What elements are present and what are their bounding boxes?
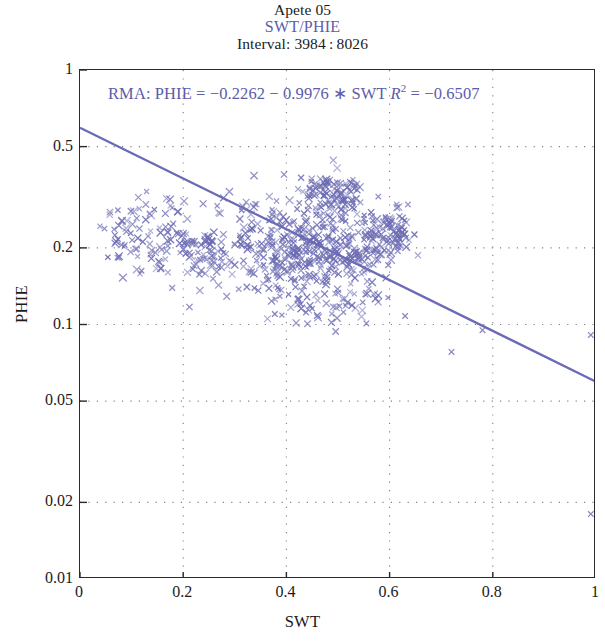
scatter-point — [362, 227, 368, 233]
scatter-point — [364, 278, 371, 285]
chart-subtitle: SWT/PHIE — [0, 19, 605, 36]
scatter-point — [210, 276, 215, 281]
scatter-point — [402, 243, 410, 251]
scatter-point — [329, 311, 334, 316]
scatter-point — [295, 186, 301, 192]
scatter-point — [315, 297, 321, 303]
scatter-point — [375, 299, 382, 306]
scatter-point — [196, 287, 203, 294]
scatter-point — [135, 254, 140, 259]
scatter-point — [118, 217, 126, 225]
scatter-point — [184, 269, 191, 276]
scatter-point — [277, 210, 282, 215]
scatter-point — [168, 203, 174, 209]
x-tick-label: 1 — [591, 583, 599, 601]
page-title: Apete 05 — [0, 2, 605, 18]
gridlines — [80, 70, 595, 578]
scatter-point — [354, 220, 360, 226]
scatter-points-layer — [97, 157, 593, 517]
scatter-point — [326, 213, 333, 220]
scatter-point — [215, 282, 222, 289]
scatter-point — [272, 311, 278, 317]
scatter-point — [178, 250, 183, 255]
scatter-point — [402, 219, 409, 226]
scatter-point — [165, 243, 170, 248]
y-tick-label: 0.01 — [9, 569, 79, 587]
scatter-point — [282, 216, 289, 223]
x-tick-label: 0.2 — [172, 583, 192, 601]
scatter-point — [588, 511, 594, 517]
scatter-point — [169, 285, 175, 291]
y-tick-label: 0.05 — [9, 391, 79, 409]
scatter-point — [309, 306, 314, 311]
scatter-point — [347, 224, 353, 230]
x-axis-label: SWT — [0, 612, 605, 632]
scatter-point — [163, 248, 170, 255]
scatter-point — [215, 203, 220, 208]
regression-equation-annotation: RMA: PHIE = −0.2262 − 0.9976 ∗ SWT R2 = … — [108, 82, 596, 104]
scatter-point — [240, 263, 246, 269]
x-tick-label: 0.8 — [482, 583, 502, 601]
scatter-point — [348, 281, 353, 286]
scatter-point — [277, 294, 282, 299]
scatter-point — [148, 229, 153, 234]
scatter-point — [147, 241, 153, 247]
scatter-point — [180, 197, 188, 205]
scatter-point — [115, 207, 120, 212]
scatter-point — [303, 309, 309, 315]
scatter-point — [349, 204, 355, 210]
scatter-point — [218, 238, 225, 245]
scatter-point — [402, 313, 408, 319]
scatter-point — [136, 226, 142, 232]
r-squared-value: = −0.6507 — [411, 84, 480, 103]
scatter-point — [341, 310, 346, 315]
scatter-point — [333, 314, 340, 321]
scatter-point — [297, 305, 304, 312]
scatter-point — [364, 321, 370, 327]
scatter-point — [236, 286, 241, 291]
scatter-point — [240, 258, 246, 264]
scatter-point — [376, 194, 381, 199]
scatter-point — [297, 200, 302, 205]
y-tick-label: 0.2 — [9, 238, 79, 256]
scatter-point — [281, 266, 288, 273]
scatter-point — [287, 304, 294, 311]
scatter-point — [266, 285, 273, 292]
scatter-point — [258, 228, 264, 234]
y-tick-label: 0.5 — [9, 137, 79, 155]
scatter-point — [293, 319, 300, 326]
y-axis-label: PHIE — [12, 264, 32, 344]
scatter-point — [286, 292, 291, 297]
scatter-point — [240, 224, 248, 232]
scatter-point — [328, 319, 335, 326]
scatter-point — [288, 261, 294, 267]
scatter-point — [274, 198, 279, 203]
scatter-point — [351, 274, 358, 281]
scatter-plot-figure: Apete 05 SWT/PHIE Interval: 3984 : 8026 … — [0, 0, 605, 643]
scatter-point — [298, 175, 304, 181]
scatter-point — [279, 313, 284, 318]
scatter-point — [274, 227, 280, 233]
scatter-point — [332, 328, 338, 334]
scatter-point — [105, 255, 110, 260]
scatter-point — [174, 208, 181, 215]
scatter-point — [184, 231, 189, 236]
scatter-point — [304, 320, 311, 327]
y-tick-label: 1 — [9, 60, 79, 78]
scatter-point — [143, 201, 150, 208]
scatter-point — [250, 172, 257, 179]
scatter-point — [244, 284, 250, 290]
scatter-point — [236, 215, 243, 222]
plot-area — [79, 69, 595, 578]
scatter-point — [112, 232, 118, 238]
scatter-point — [142, 216, 149, 223]
scatter-point — [264, 315, 271, 322]
scatter-point — [318, 200, 323, 205]
scatter-point — [156, 243, 164, 251]
scatter-point — [411, 232, 417, 238]
scatter-point — [135, 194, 141, 200]
scatter-point — [134, 235, 141, 242]
scatter-point — [286, 196, 294, 204]
chart-interval-label: Interval: 3984 : 8026 — [0, 36, 605, 52]
scatter-point — [396, 213, 402, 219]
